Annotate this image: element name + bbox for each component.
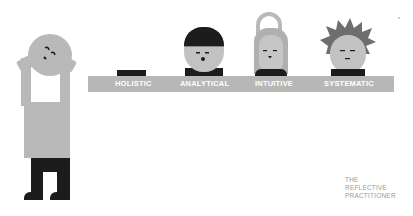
surprised-face-icon: [192, 49, 216, 65]
calm-face-icon: [261, 48, 281, 62]
left-foot: [24, 192, 43, 200]
systematic-collar: [331, 69, 365, 76]
cap-brim-line: [184, 46, 224, 47]
worried-eyes-icon: [40, 44, 62, 64]
label-intuitive: INTUITIVE: [255, 79, 293, 88]
label-systematic: SYSTEMATIC: [324, 79, 374, 88]
caption: THE REFLECTIVE PRACTITIONER: [345, 176, 396, 200]
caption-line-3: PRACTITIONER: [345, 192, 396, 200]
caption-line-1: THE: [345, 176, 396, 184]
analytical-cap: [184, 27, 224, 47]
right-foot: [50, 192, 70, 200]
figure-torso: [24, 102, 70, 158]
label-holistic: HOLISTIC: [115, 79, 152, 88]
stern-face-icon: [337, 48, 359, 64]
speck: [398, 17, 400, 19]
label-analytical: ANALYTICAL: [180, 79, 229, 88]
caption-line-2: REFLECTIVE: [345, 184, 396, 192]
intuitive-collar: [255, 69, 287, 76]
